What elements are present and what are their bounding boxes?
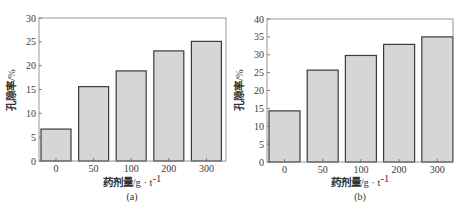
chart-b-x-axis-label: 药剂量/g · t-1 bbox=[331, 173, 390, 188]
y-tick-label: 30 bbox=[26, 13, 36, 24]
y-tick-label: 10 bbox=[254, 121, 264, 132]
y-tick-label: 0 bbox=[259, 157, 264, 168]
y-tick-label: 25 bbox=[26, 36, 36, 47]
chart-a-y-axis-label: 孔隙率/% bbox=[5, 69, 17, 111]
y-tick-label: 5 bbox=[259, 139, 264, 150]
x-tick-label: 0 bbox=[282, 164, 287, 175]
y-tick-label: 35 bbox=[254, 31, 264, 42]
x-tick-label: 100 bbox=[124, 163, 139, 174]
chart-b-caption: (b) bbox=[354, 191, 366, 203]
x-tick-label: 50 bbox=[318, 164, 328, 175]
bar-0 bbox=[269, 111, 300, 162]
chart-b-y-axis: 0510152025303540 bbox=[254, 14, 270, 168]
bar-300 bbox=[422, 37, 453, 162]
chart-a: 051015202530 050100200300 孔隙率/% 药剂量/g · … bbox=[5, 13, 226, 204]
y-tick-label: 40 bbox=[254, 14, 264, 25]
y-tick-label: 0 bbox=[31, 156, 36, 167]
bar-200 bbox=[154, 51, 184, 161]
chart-a-caption: (a) bbox=[126, 191, 137, 203]
y-tick-label: 20 bbox=[254, 85, 264, 96]
y-tick-label: 30 bbox=[254, 49, 264, 60]
bar-100 bbox=[345, 55, 376, 162]
y-tick-label: 15 bbox=[26, 84, 36, 95]
x-tick-label: 50 bbox=[89, 163, 99, 174]
chart-b: 0510152025303540 050100200300 孔隙率/% 药剂量/… bbox=[233, 14, 453, 204]
chart-b-bars bbox=[269, 37, 453, 162]
bar-300 bbox=[191, 41, 221, 161]
chart-b-y-axis-label: 孔隙率/% bbox=[233, 69, 245, 111]
y-tick-label: 5 bbox=[31, 132, 36, 143]
chart-a-x-axis-label: 药剂量/g · t-1 bbox=[103, 173, 162, 188]
x-tick-label: 200 bbox=[392, 164, 407, 175]
x-tick-label: 0 bbox=[54, 163, 59, 174]
x-tick-label: 200 bbox=[161, 163, 176, 174]
x-tick-label: 300 bbox=[430, 164, 445, 175]
bar-50 bbox=[307, 70, 338, 162]
y-tick-label: 10 bbox=[26, 108, 36, 119]
x-tick-label: 300 bbox=[199, 163, 214, 174]
x-tick-label: 100 bbox=[353, 164, 368, 175]
y-tick-label: 25 bbox=[254, 67, 264, 78]
y-tick-label: 20 bbox=[26, 60, 36, 71]
y-tick-label: 15 bbox=[254, 103, 264, 114]
chart-a-bars bbox=[41, 41, 221, 161]
chart-a-y-axis: 051015202530 bbox=[26, 13, 42, 167]
figure: 051015202530 050100200300 孔隙率/% 药剂量/g · … bbox=[0, 0, 464, 210]
bar-50 bbox=[79, 87, 109, 161]
bar-0 bbox=[41, 129, 71, 161]
bar-100 bbox=[116, 71, 146, 161]
bar-200 bbox=[384, 44, 415, 162]
